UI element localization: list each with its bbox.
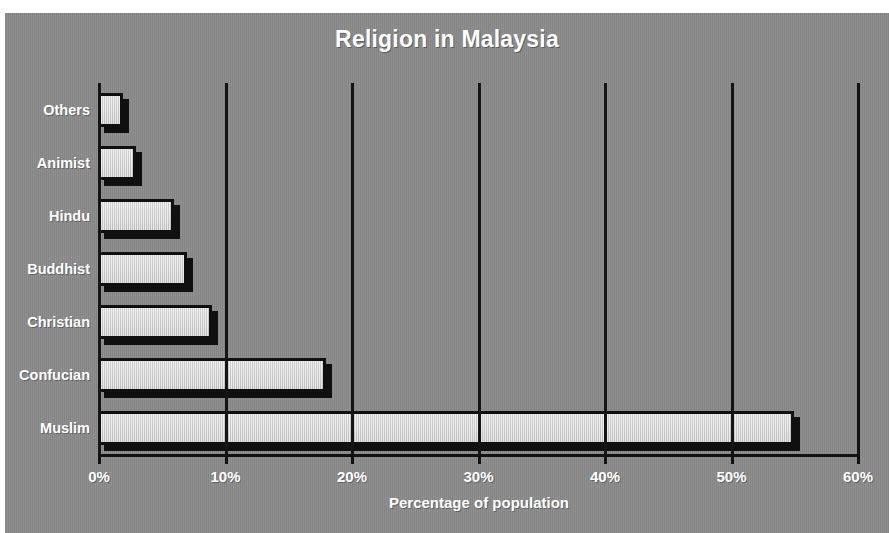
- x-tick-label-20: 20%: [322, 468, 382, 485]
- category-label-christian: Christian: [5, 314, 90, 330]
- chart-title: Religion in Malaysia: [5, 26, 889, 53]
- x-tick-0: [98, 454, 101, 464]
- plot-area: [98, 83, 857, 455]
- gridline-10: [225, 83, 228, 455]
- x-tick-label-30: 30%: [449, 468, 509, 485]
- gridline-20: [351, 83, 354, 455]
- gridline-40: [604, 83, 607, 455]
- x-axis-label: Percentage of population: [98, 494, 860, 511]
- x-tick-label-50: 50%: [702, 468, 762, 485]
- category-label-animist: Animist: [5, 155, 90, 171]
- x-tick-label-60: 60%: [828, 468, 888, 485]
- category-label-muslim: Muslim: [5, 420, 90, 436]
- x-tick-label-0: 0%: [69, 468, 129, 485]
- x-tick-60: [857, 454, 860, 464]
- x-tick-20: [351, 454, 354, 464]
- x-tick-label-10: 10%: [196, 468, 256, 485]
- category-label-others: Others: [5, 102, 90, 118]
- x-tick-50: [731, 454, 734, 464]
- gridline-50: [731, 83, 734, 455]
- chart-container: Religion in Malaysia Percentage of popul…: [5, 13, 889, 533]
- gridline-30: [478, 83, 481, 455]
- x-tick-label-40: 40%: [575, 468, 635, 485]
- category-label-confucian: Confucian: [5, 367, 90, 383]
- gridline-0: [98, 83, 101, 455]
- x-tick-40: [604, 454, 607, 464]
- category-label-hindu: Hindu: [5, 208, 90, 224]
- x-tick-30: [478, 454, 481, 464]
- category-label-buddhist: Buddhist: [5, 261, 90, 277]
- gridline-60: [857, 83, 860, 455]
- x-tick-10: [225, 454, 228, 464]
